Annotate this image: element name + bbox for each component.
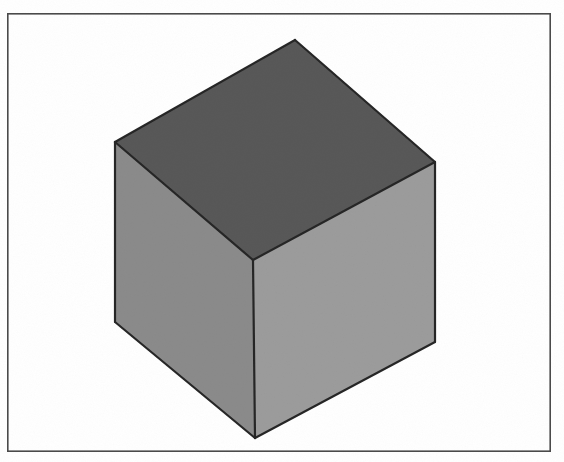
cube-figure-svg <box>0 0 564 462</box>
figure-root <box>0 0 564 462</box>
